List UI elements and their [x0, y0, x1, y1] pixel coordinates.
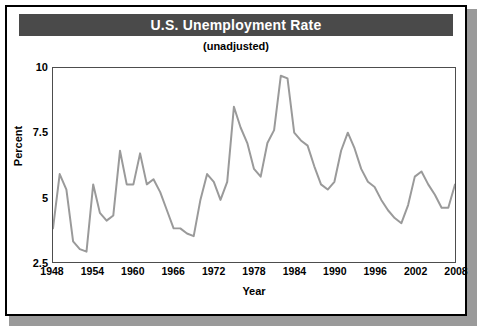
x-tick-label: 1948	[30, 266, 74, 277]
chart-title: U.S. Unemployment Rate	[151, 18, 322, 32]
chart-subtitle: (unadjusted)	[7, 40, 465, 52]
x-axis-label: Year	[52, 285, 456, 297]
chart-title-band: U.S. Unemployment Rate	[19, 14, 453, 36]
unemployment-rate-line	[53, 76, 455, 252]
x-tick-label: 1984	[272, 266, 316, 277]
y-tick-label: 5	[8, 192, 48, 203]
x-tick-label: 2008	[434, 266, 478, 277]
y-tick-label: 10	[8, 62, 48, 73]
figure-frame: U.S. Unemployment Rate (unadjusted) 2.55…	[5, 5, 467, 316]
x-tick-label: 1954	[70, 266, 114, 277]
x-tick-label: 1966	[151, 266, 195, 277]
chart-screenshot: U.S. Unemployment Rate (unadjusted) 2.55…	[0, 0, 482, 331]
x-tick-label: 1978	[232, 266, 276, 277]
x-tick-label: 1960	[111, 266, 155, 277]
x-tick-label: 1990	[313, 266, 357, 277]
line-chart-svg	[53, 68, 455, 262]
x-axis-tick-labels: 1948195419601966197219781984199019962002…	[52, 266, 456, 282]
x-tick-label: 2002	[394, 266, 438, 277]
plot-area	[52, 67, 456, 263]
x-tick-label: 1996	[353, 266, 397, 277]
y-axis-label: Percent	[12, 116, 24, 176]
x-tick-label: 1972	[192, 266, 236, 277]
